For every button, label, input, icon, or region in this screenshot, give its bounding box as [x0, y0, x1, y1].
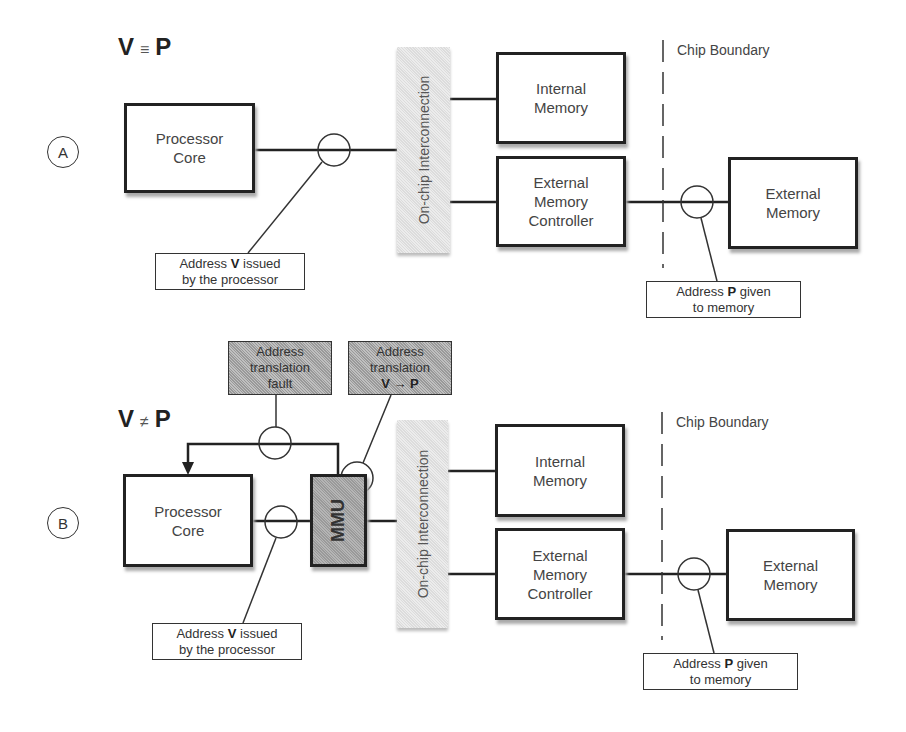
panel-a-label: A [47, 136, 79, 168]
chip-boundary-label-b: Chip Boundary [676, 414, 769, 430]
on-chip-interconnection-a: On-chip Interconnection [397, 47, 450, 253]
external-memory-b: External Memory [726, 529, 855, 621]
external-memory-controller-a: External Memory Controller [496, 156, 626, 247]
processor-core-b: Processor Core [123, 474, 253, 567]
callout-address-p-a: Address P givento memory [646, 281, 801, 318]
callout-address-v-b: Address V issuedby the processor [152, 623, 302, 660]
callout-address-v-a: Address V issuedby the processor [155, 253, 305, 290]
title-v-neq-p: V≠P [118, 405, 171, 433]
mmu-block: MMU [310, 474, 367, 567]
callout-address-p-b: Address P givento memory [643, 653, 798, 690]
internal-memory-b: Internal Memory [495, 424, 625, 517]
external-memory-controller-b: External Memory Controller [495, 528, 625, 620]
address-translation-box: AddresstranslationV → P [348, 341, 452, 395]
panel-b-label: B [47, 507, 79, 539]
title-v-equiv-p: V≡P [118, 33, 171, 61]
internal-memory-a: Internal Memory [496, 52, 626, 144]
external-memory-a: External Memory [728, 157, 858, 249]
processor-core-a: Processor Core [124, 103, 255, 193]
on-chip-interconnection-b: On-chip Interconnection [397, 420, 448, 628]
address-translation-fault-box: Addresstranslationfault [228, 341, 332, 395]
chip-boundary-label-a: Chip Boundary [677, 42, 770, 58]
